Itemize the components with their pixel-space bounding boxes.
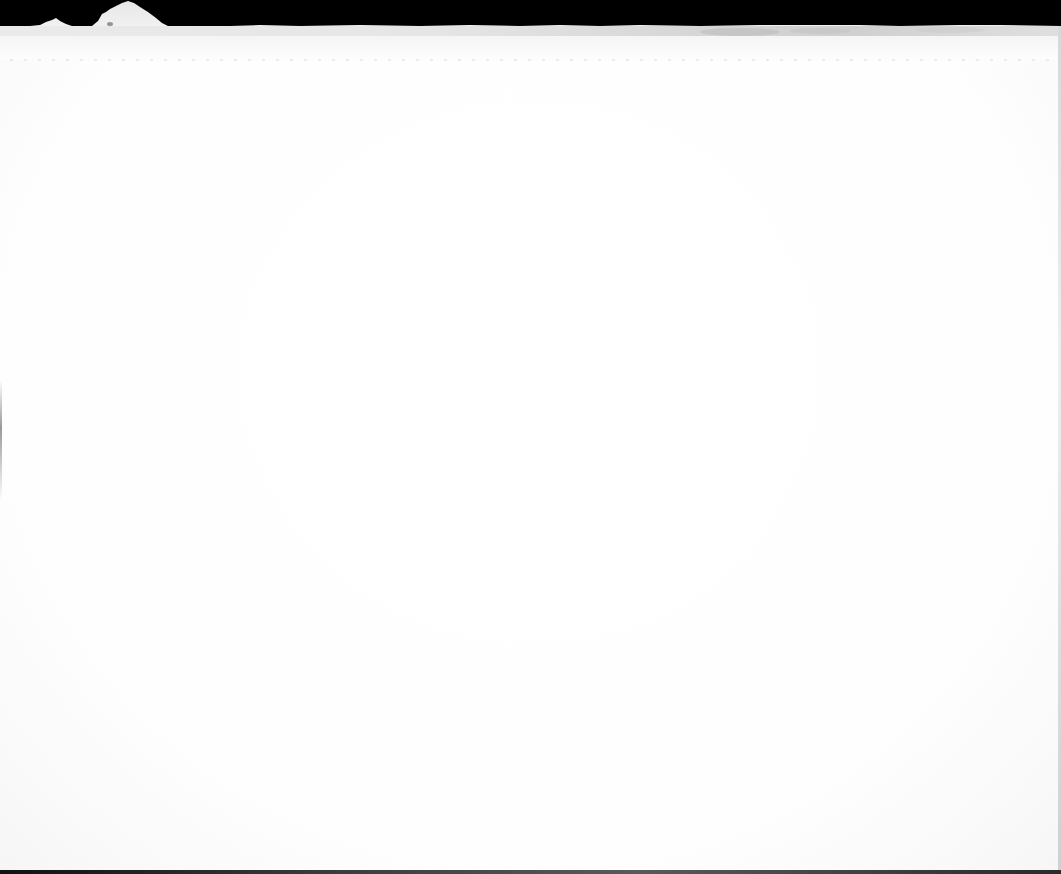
dark-bottom-edge [0,870,1061,874]
horizon-silhouette [0,0,1061,60]
overexposed-foreground [0,40,1061,870]
horizon-band [0,26,1061,36]
peak-shadow [107,22,113,26]
overexposed-landscape-photo [0,0,1061,874]
faint-texture-line [10,59,1055,61]
left-edge-shadow [0,380,2,500]
